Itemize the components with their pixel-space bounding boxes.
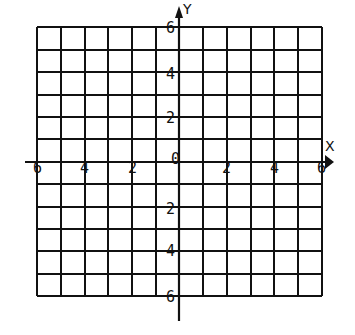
- x-tick-label-neg6: 6: [33, 159, 42, 177]
- y-tick-label-2: 2: [166, 109, 175, 127]
- y-tick-label-neg2: 2: [166, 200, 175, 218]
- y-axis-title: Y: [182, 1, 192, 17]
- x-tick-label-2: 2: [222, 159, 231, 177]
- y-tick-label-6: 6: [166, 19, 175, 37]
- x-tick-label-4: 4: [270, 159, 279, 177]
- coordinate-plane: X Y 6 4 2 0 2 4 6 6 4 2 2 4 6: [0, 0, 355, 335]
- y-tick-label-neg4: 4: [166, 242, 175, 260]
- y-axis-arrow-icon: [175, 6, 183, 18]
- y-tick-label-neg6: 6: [166, 288, 175, 306]
- x-tick-label-neg2: 2: [128, 159, 137, 177]
- x-axis-arrow-icon: [325, 155, 334, 169]
- origin-label: 0: [171, 150, 180, 168]
- x-tick-label-6: 6: [317, 159, 326, 177]
- x-axis-title: X: [325, 138, 335, 154]
- x-tick-label-neg4: 4: [80, 159, 89, 177]
- y-tick-label-4: 4: [166, 65, 175, 83]
